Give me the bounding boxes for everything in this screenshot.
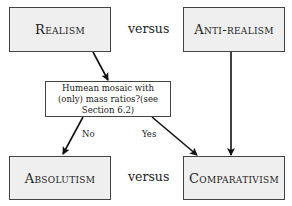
realism-label: Realism xyxy=(35,22,85,37)
edge-realism-to-question xyxy=(93,52,108,80)
anti-realism-node: Anti-realism xyxy=(183,7,285,52)
versus-top-label: versus xyxy=(128,21,169,36)
edge-question-to-absolutism xyxy=(63,117,83,154)
question-label: Humean mosaic with (only) mass ratios?(s… xyxy=(50,83,166,116)
comparativism-node: Comparativism xyxy=(183,156,285,200)
edge-question-to-comparativism xyxy=(152,117,197,155)
absolutism-label: Absolutism xyxy=(25,171,96,186)
absolutism-node: Absolutism xyxy=(9,156,111,200)
edge-label-no: No xyxy=(82,129,95,139)
realism-node: Realism xyxy=(9,7,111,52)
anti-realism-label: Anti-realism xyxy=(194,22,274,37)
edge-label-yes: Yes xyxy=(142,129,156,139)
question-node: Humean mosaic with (only) mass ratios?(s… xyxy=(45,81,171,117)
versus-bottom-label: versus xyxy=(128,169,169,184)
comparativism-label: Comparativism xyxy=(189,171,279,186)
